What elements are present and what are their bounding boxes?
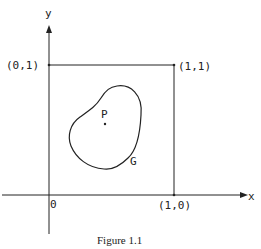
- x-axis: [2, 192, 248, 198]
- y-arrow-icon: [46, 25, 52, 33]
- unit-square: [48, 64, 176, 197]
- point-label-1-0: (1,0): [158, 199, 191, 212]
- x-axis-label: x: [248, 190, 255, 203]
- point-p-dot: [104, 123, 106, 125]
- point-label-0-1: (0,1): [6, 59, 39, 72]
- point-p-label: P: [101, 108, 108, 121]
- region-g-label: G: [130, 155, 137, 168]
- origin-label: 0: [50, 198, 57, 211]
- x-arrow-icon: [240, 192, 248, 198]
- point-label-1-1: (1,1): [178, 60, 211, 73]
- figure-caption: Figure 1.1: [97, 234, 142, 246]
- y-axis-label: y: [45, 7, 52, 20]
- figure-diagram: y x 0 (0,1) (1,1) (1,0) P G Figure 1.1: [0, 0, 261, 249]
